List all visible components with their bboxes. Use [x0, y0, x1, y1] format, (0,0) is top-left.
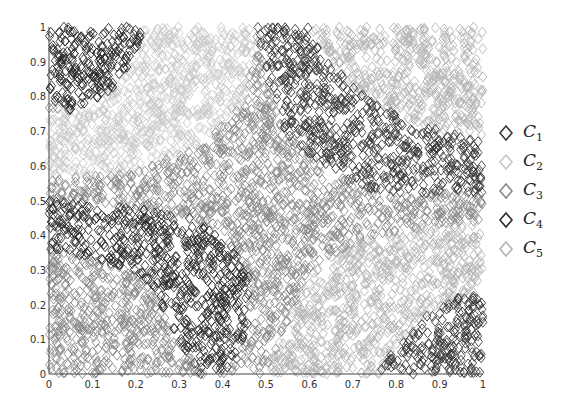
- legend-label: C1: [523, 121, 543, 144]
- x-tick-label: 0.1: [84, 379, 100, 390]
- legend-label: C3: [523, 179, 543, 202]
- diamond-marker-icon: [497, 153, 515, 171]
- y-tick-label: 0.5: [30, 196, 46, 207]
- diamond-marker-icon: [497, 124, 515, 142]
- x-tick-labels: 00.10.20.30.40.50.60.70.80.91: [46, 379, 486, 390]
- x-tick-label: 0.8: [388, 379, 404, 390]
- x-tick-label: 0: [46, 379, 52, 390]
- y-tick-label: 0.3: [30, 265, 46, 276]
- y-tick-label: 0: [40, 369, 46, 380]
- y-tick-label: 0.1: [30, 334, 46, 345]
- legend-item-c5: C5: [497, 234, 577, 263]
- legend-label: C5: [523, 237, 543, 260]
- x-tick-label: 0.2: [128, 379, 144, 390]
- y-tick-label: 0.9: [30, 57, 46, 68]
- diamond-marker-icon: [497, 211, 515, 229]
- y-tick-label: 0.7: [30, 126, 46, 137]
- legend-label: C4: [523, 208, 543, 231]
- legend: C1 C2 C3 C4 C5: [497, 118, 577, 263]
- legend-item-c3: C3: [497, 176, 577, 205]
- x-tick-label: 1: [480, 379, 486, 390]
- y-tick-label: 0.8: [30, 91, 46, 102]
- diamond-marker-icon: [497, 182, 515, 200]
- y-tick-label: 0.6: [30, 161, 46, 172]
- legend-item-c1: C1: [497, 118, 577, 147]
- x-tick-label: 0.5: [258, 379, 274, 390]
- y-tick-labels: 00.10.20.30.40.50.60.70.80.91: [30, 22, 46, 380]
- legend-item-c2: C2: [497, 147, 577, 176]
- legend-item-c4: C4: [497, 205, 577, 234]
- diamond-marker-icon: [497, 240, 515, 258]
- x-tick-label: 0.7: [345, 379, 361, 390]
- legend-label: C2: [523, 150, 543, 173]
- scatter-chart: 00.10.20.30.40.50.60.70.80.91 00.10.20.3…: [0, 0, 579, 414]
- x-tick-label: 0.9: [432, 379, 448, 390]
- y-tick-label: 1: [40, 22, 46, 33]
- y-tick-label: 0.2: [30, 300, 46, 311]
- x-tick-label: 0.6: [301, 379, 317, 390]
- x-tick-label: 0.4: [215, 379, 231, 390]
- scatter-points: [45, 22, 487, 379]
- y-tick-label: 0.4: [30, 230, 46, 241]
- x-tick-label: 0.3: [171, 379, 187, 390]
